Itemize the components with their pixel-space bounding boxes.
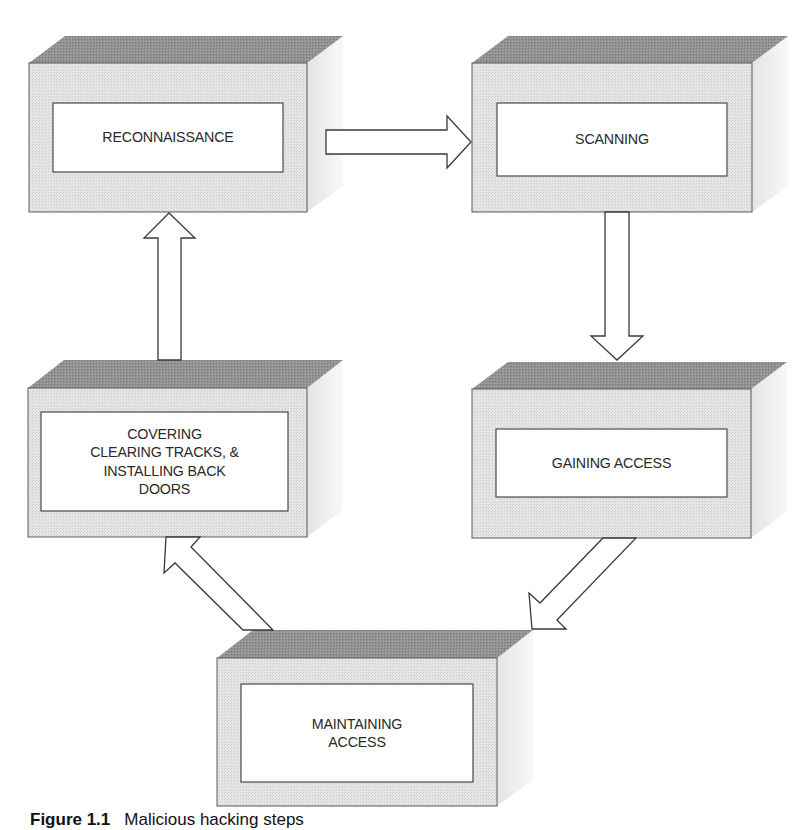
box-side-face (752, 36, 788, 212)
box-side-face (307, 36, 343, 212)
box-top-face (472, 36, 788, 63)
box-top-face (217, 630, 533, 658)
arrow-down-left-icon (529, 538, 636, 629)
arrow-up-left-icon (164, 537, 273, 630)
box-side-face (497, 630, 533, 806)
step-label-maintaining-access: MAINTAINING ACCESS (250, 684, 463, 782)
box-top-face (472, 362, 787, 389)
step-label-scanning: SCANNING (506, 103, 718, 176)
figure-number: Figure 1.1 (30, 810, 110, 829)
arrow-up-icon (144, 213, 195, 360)
step-label-gaining-access: GAINING ACCESS (505, 429, 718, 497)
step-label-covering: COVERING CLEARING TRACKS, & INSTALLING B… (51, 412, 278, 511)
arrow-right-icon (326, 116, 471, 168)
box-top-face (29, 36, 343, 63)
box-top-face (28, 360, 343, 388)
figure-caption: Figure 1.1Malicious hacking steps (30, 810, 304, 830)
figure-caption-text: Malicious hacking steps (124, 810, 304, 829)
arrow-down-icon (591, 212, 643, 360)
box-side-face (307, 360, 343, 537)
step-label-reconnaissance: RECONNAISSANCE (62, 103, 274, 172)
box-side-face (751, 362, 787, 538)
